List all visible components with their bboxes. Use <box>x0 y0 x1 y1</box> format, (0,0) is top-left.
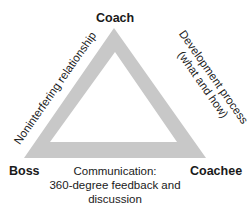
edge-label-bottom: Communication: 360-degree feedback and d… <box>40 164 190 206</box>
node-coach: Coach <box>96 11 134 25</box>
edge-label-bottom-line2: 360-degree feedback and <box>40 178 190 192</box>
node-boss: Boss <box>9 164 40 178</box>
edge-label-bottom-line3: discussion <box>40 192 190 206</box>
edge-label-bottom-line1: Communication: <box>40 164 190 178</box>
node-coachee: Coachee <box>190 164 242 178</box>
